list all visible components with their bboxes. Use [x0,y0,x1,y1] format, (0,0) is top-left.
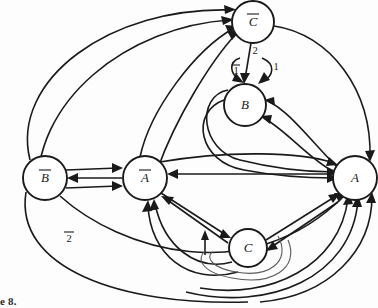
node-bbar-label: B [41,170,49,185]
node-b[interactable]: B [224,84,266,126]
arrowhead-c-to-abar-curve2 [142,200,152,212]
edge-bbar-bottom-sweep [25,192,248,302]
arrowhead-bbar-to-abar-top [112,163,123,173]
node-abar-label: A [140,170,149,185]
edge-label-1bar: 1 [232,65,240,76]
edge-label-2-top-text: 2 [252,45,257,56]
edge-cbar-to-a-right-outer [274,26,370,158]
node-c-label: C [244,240,253,255]
figure-caption: e 8. [0,295,17,307]
abar-c-bundle [142,193,238,275]
node-group: C B B A A [23,1,377,267]
node-b-label: B [241,97,249,112]
edge-label-1bar-text: 1 [233,65,238,76]
bbar-abar-bundle [66,163,123,191]
node-cbar-label: C [249,14,258,29]
node-bbar[interactable]: B [23,156,67,200]
edge-bbar-to-abar-bottom [66,186,118,188]
arrowhead-cbar-to-b-1 [258,72,270,84]
node-a[interactable]: A [333,156,377,200]
edge-label-1-text: 1 [273,61,278,72]
edge-label-2bar-text: 2 [66,233,71,244]
edge-label-2bar: 2 [64,232,74,244]
a-abar-bundle [160,154,338,179]
node-abar[interactable]: A [123,156,167,200]
edge-bbar-to-abar-top [66,168,118,170]
arrowhead-c-tick-arrow [201,230,209,240]
arrowhead-bbar-to-abar-bottom [112,181,123,191]
arrowhead-abar-to-c-upper [219,229,231,238]
arrowhead-a-to-abar-straight [167,169,178,179]
arrowhead-abar-to-bbar-middle [67,173,78,183]
graph-canvas: C B B A A [0,0,378,308]
edge-c-to-a-upper [266,196,336,240]
edge-label-1: 1 [273,61,278,72]
node-cbar[interactable]: C [232,1,274,43]
node-a-label: A [350,170,359,185]
edge-label-2-top: 2 [252,45,257,56]
edge-c-to-abar-pair [166,199,228,243]
node-c[interactable]: C [229,229,267,267]
edge-bbar-to-cbar-outer [27,10,232,160]
figure-container: C B B A A [0,0,378,308]
